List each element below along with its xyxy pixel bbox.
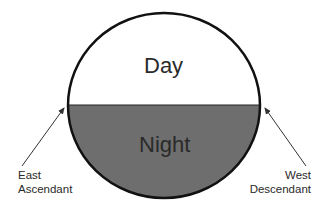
east-arrow-icon: [22, 108, 64, 166]
day-night-diagram: Day Night East Ascendant West Descendant: [0, 0, 327, 212]
east-label-line1: East: [18, 168, 72, 182]
east-label-line2: Ascendant: [18, 182, 72, 196]
day-label: Day: [144, 53, 183, 79]
west-label-line1: West: [250, 168, 311, 182]
east-ascendant-label: East Ascendant: [18, 168, 72, 196]
west-descendant-label: West Descendant: [250, 168, 311, 196]
west-arrow-icon: [265, 108, 306, 166]
night-label: Night: [139, 132, 190, 158]
west-label-line2: Descendant: [250, 182, 311, 196]
